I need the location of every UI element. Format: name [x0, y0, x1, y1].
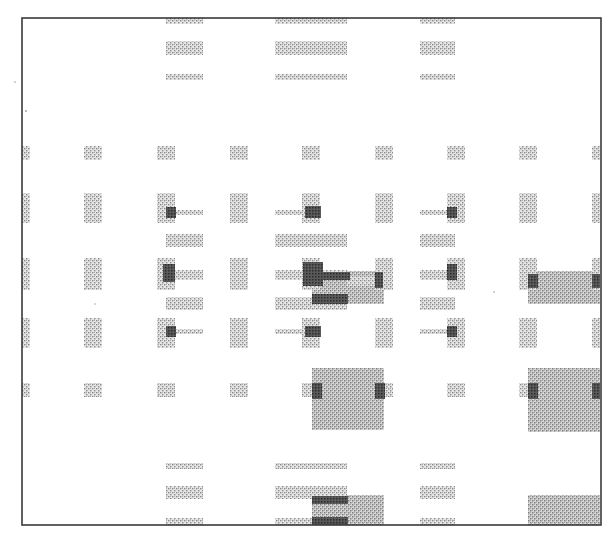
row-bar — [275, 18, 347, 24]
column-pad — [592, 146, 600, 160]
overlap-mark — [592, 274, 600, 288]
overlap-mark — [312, 517, 348, 525]
scan-speck — [493, 291, 495, 293]
row-bar — [420, 18, 455, 24]
column-pad — [519, 193, 537, 223]
column-pad — [230, 193, 248, 223]
row-bar — [166, 74, 203, 80]
overlap-mark — [528, 383, 538, 399]
column-pad — [592, 193, 600, 223]
row-bar — [275, 74, 347, 80]
column-pad — [230, 383, 248, 397]
fill-block — [528, 368, 600, 432]
overlap-mark — [312, 383, 322, 399]
column-pad — [519, 146, 537, 160]
column-pad — [375, 193, 393, 223]
row-bar — [420, 234, 455, 247]
row-bar — [166, 18, 203, 24]
overlap-mark — [312, 294, 348, 304]
fill-block — [312, 368, 384, 430]
column-pad — [22, 146, 30, 160]
row-bar — [275, 41, 347, 55]
column-pad — [22, 193, 30, 223]
row-bar — [166, 41, 203, 55]
column-pad — [22, 383, 30, 397]
row-bar — [420, 297, 455, 310]
fill-block — [528, 271, 600, 304]
overlap-mark — [312, 496, 348, 504]
column-pad — [230, 318, 248, 348]
fill-blocks — [312, 271, 600, 525]
row-bar — [420, 41, 455, 55]
fill-block — [528, 495, 600, 525]
column-pad — [592, 318, 600, 348]
column-pad — [302, 146, 320, 160]
scan-speck — [94, 303, 95, 304]
row-bar — [166, 297, 203, 310]
row-bar — [420, 518, 455, 525]
row-bar — [166, 518, 203, 525]
overlap-marks — [163, 206, 600, 525]
column-pad — [447, 383, 465, 397]
row-bar — [166, 486, 203, 499]
overlap-mark — [375, 272, 383, 288]
overlap-mark — [305, 206, 321, 218]
column-pad — [230, 146, 248, 160]
overlap-mark — [592, 383, 600, 399]
column-pad — [447, 146, 465, 160]
row-bar — [166, 463, 203, 469]
overlap-mark — [375, 383, 385, 399]
column-pad — [84, 318, 102, 348]
column-pad — [375, 146, 393, 160]
column-pad — [84, 146, 102, 160]
row-bar — [166, 234, 203, 247]
row-bar — [420, 463, 455, 469]
column-pad — [84, 258, 102, 290]
overlap-mark — [166, 207, 176, 218]
scan-speck — [25, 110, 27, 112]
row-bar — [420, 74, 455, 80]
column-pad — [157, 383, 175, 397]
column-pad — [157, 146, 175, 160]
column-pad — [519, 318, 537, 348]
column-pad — [84, 383, 102, 397]
column-pad — [22, 318, 30, 348]
column-pad — [22, 258, 30, 290]
column-pad — [375, 318, 393, 348]
row-bar — [420, 486, 455, 499]
overlap-mark — [166, 326, 176, 337]
column-pad — [230, 258, 248, 290]
overlap-mark — [305, 326, 321, 337]
overlap-mark — [447, 264, 457, 280]
overlap-mark — [163, 264, 175, 282]
column-pad — [84, 193, 102, 223]
overlap-mark — [320, 272, 350, 280]
overlap-mark — [528, 274, 538, 288]
row-bar — [275, 234, 347, 247]
layout-diagram — [0, 0, 615, 541]
overlap-mark — [447, 207, 457, 218]
row-bar — [275, 463, 347, 469]
scan-speck — [14, 81, 16, 83]
overlap-mark — [447, 326, 457, 337]
